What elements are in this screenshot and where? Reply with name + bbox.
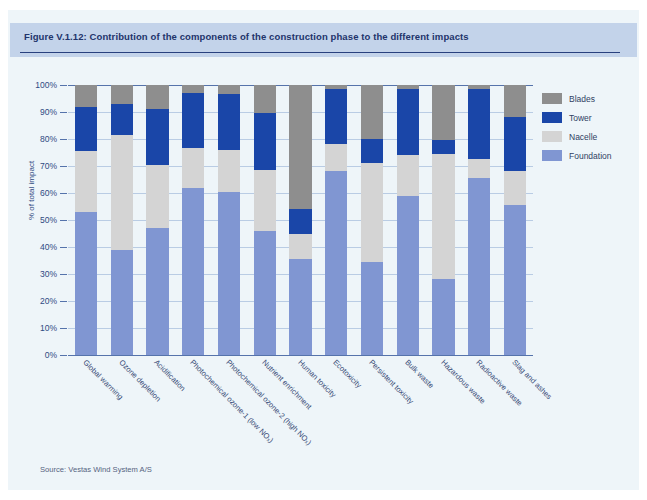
bar-segment-nacelle[interactable] [397, 155, 419, 196]
bar-segment-tower[interactable] [432, 140, 454, 154]
bar-segment-foundation[interactable] [397, 196, 419, 355]
y-tick-mark [60, 355, 67, 356]
y-tick-mark [60, 274, 67, 275]
bar-segment-blades[interactable] [75, 85, 97, 107]
y-tick-mark [60, 301, 67, 302]
bar-segment-tower[interactable] [75, 107, 97, 152]
bar-segment-tower[interactable] [504, 117, 526, 171]
bar-segment-tower[interactable] [361, 139, 383, 163]
bar-segment-tower[interactable] [325, 89, 347, 144]
bar-segment-blades[interactable] [504, 85, 526, 117]
figure-card: Figure V.1.12: Contribution of the compo… [8, 10, 639, 490]
bar-segment-nacelle[interactable] [218, 150, 240, 192]
bar-10[interactable] [397, 85, 419, 355]
legend-item-foundation[interactable]: Foundation [542, 147, 632, 164]
bar-segment-blades[interactable] [254, 85, 276, 113]
bar-segment-foundation[interactable] [289, 259, 311, 355]
bar-11[interactable] [432, 85, 454, 355]
plot-area: 0%10%20%30%40%50%60%70%80%90%100% Global… [68, 85, 533, 355]
bar-segment-tower[interactable] [289, 209, 311, 233]
bar-segment-foundation[interactable] [325, 171, 347, 355]
bar-segment-foundation[interactable] [218, 192, 240, 355]
y-tick-mark [60, 247, 67, 248]
y-tick-label: 50% [40, 215, 57, 225]
bar-segment-nacelle[interactable] [146, 165, 168, 228]
bar-segment-foundation[interactable] [75, 212, 97, 355]
y-tick-label: 100% [35, 80, 57, 90]
bar-3[interactable] [146, 85, 168, 355]
bar-segment-tower[interactable] [218, 94, 240, 149]
y-tick-label: 70% [40, 161, 57, 171]
bar-segment-tower[interactable] [254, 113, 276, 170]
legend-swatch-icon [542, 93, 562, 104]
bar-8[interactable] [325, 85, 347, 355]
bar-segment-foundation[interactable] [111, 250, 133, 355]
bar-segment-blades[interactable] [432, 85, 454, 140]
legend-swatch-icon [542, 131, 562, 142]
bar-segment-nacelle[interactable] [432, 154, 454, 280]
bar-segment-nacelle[interactable] [468, 159, 490, 178]
bar-segment-foundation[interactable] [182, 188, 204, 355]
bar-segment-tower[interactable] [146, 109, 168, 164]
bar-segment-tower[interactable] [468, 89, 490, 159]
bar-9[interactable] [361, 85, 383, 355]
bar-segment-nacelle[interactable] [254, 170, 276, 231]
bar-segment-blades[interactable] [361, 85, 383, 139]
bar-segment-blades[interactable] [146, 85, 168, 109]
legend-item-nacelle[interactable]: Nacelle [542, 128, 632, 145]
bar-segment-foundation[interactable] [504, 205, 526, 355]
bar-12[interactable] [468, 85, 490, 355]
bar-segment-blades[interactable] [468, 85, 490, 89]
bar-segment-nacelle[interactable] [75, 151, 97, 212]
bar-segment-blades[interactable] [218, 85, 240, 94]
bar-segment-blades[interactable] [325, 85, 347, 89]
bar-2[interactable] [111, 85, 133, 355]
legend-item-tower[interactable]: Tower [542, 109, 632, 126]
legend-swatch-icon [542, 112, 562, 123]
legend-item-blades[interactable]: Blades [542, 90, 632, 107]
y-tick-mark [60, 328, 67, 329]
bar-segment-nacelle[interactable] [504, 171, 526, 205]
bar-segment-tower[interactable] [397, 89, 419, 155]
bar-13[interactable] [504, 85, 526, 355]
bar-6[interactable] [254, 85, 276, 355]
bar-segment-blades[interactable] [289, 85, 311, 209]
y-tick-mark [60, 112, 67, 113]
legend-swatch-icon [542, 150, 562, 161]
bar-segment-nacelle[interactable] [325, 144, 347, 171]
legend-label: Nacelle [569, 132, 597, 142]
bar-segment-blades[interactable] [111, 85, 133, 104]
bar-segment-nacelle[interactable] [182, 148, 204, 187]
bar-1[interactable] [75, 85, 97, 355]
bar-segment-foundation[interactable] [361, 262, 383, 355]
x-axis-label: Bulk waste [403, 358, 435, 390]
bar-segment-blades[interactable] [397, 85, 419, 89]
bar-segment-nacelle[interactable] [111, 135, 133, 250]
bar-segment-foundation[interactable] [146, 228, 168, 355]
y-axis-title: % of total impact [27, 161, 36, 220]
y-tick-label: 80% [40, 134, 57, 144]
bar-segment-nacelle[interactable] [361, 163, 383, 262]
bar-5[interactable] [218, 85, 240, 355]
y-tick-label: 0% [45, 350, 57, 360]
bar-7[interactable] [289, 85, 311, 355]
y-tick-mark [60, 85, 67, 86]
x-axis-label: Acidification [153, 358, 188, 393]
chart-container: % of total impact 0%10%20%30%40%50%60%70… [8, 10, 639, 490]
bar-segment-tower[interactable] [182, 93, 204, 148]
legend-label: Blades [569, 94, 595, 104]
bar-segment-foundation[interactable] [432, 279, 454, 355]
y-tick-mark [60, 166, 67, 167]
bar-segment-foundation[interactable] [468, 178, 490, 355]
bar-segment-nacelle[interactable] [289, 234, 311, 260]
chart-legend: BladesTowerNacelleFoundation [542, 90, 632, 166]
bar-4[interactable] [182, 85, 204, 355]
legend-label: Tower [569, 113, 592, 123]
y-tick-mark [60, 139, 67, 140]
x-axis-label: Ecotoxicity [332, 358, 364, 390]
y-tick-label: 30% [40, 269, 57, 279]
bar-segment-tower[interactable] [111, 104, 133, 135]
y-tick-mark [60, 193, 67, 194]
bar-segment-blades[interactable] [182, 85, 204, 93]
bar-segment-foundation[interactable] [254, 231, 276, 355]
